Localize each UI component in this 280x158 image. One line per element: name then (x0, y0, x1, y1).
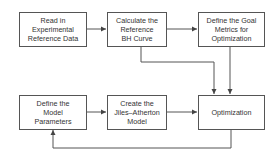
node-jiles-atherton-model: Create the Jiles–Atherton Model (107, 95, 167, 130)
arrow-calc-to-optimization (141, 46, 214, 94)
arrow-optimization-feedback (53, 129, 231, 148)
node-model-parameters: Define the Model Parameters (19, 95, 87, 130)
node-optimization: Optimization (198, 95, 265, 130)
node-calc-bh-curve: Calculate the Reference BH Curve (107, 12, 167, 47)
node-read-data: Read in Experimental Reference Data (19, 12, 87, 47)
node-goal-metrics: Define the Goal Metrics for Optimization (198, 12, 265, 47)
